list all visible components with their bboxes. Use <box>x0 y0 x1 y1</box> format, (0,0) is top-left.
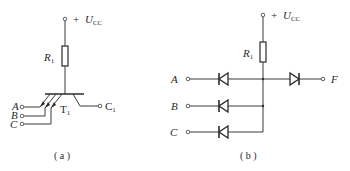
output-terminal-c1 <box>98 104 102 108</box>
diode-c-icon <box>219 126 228 138</box>
supply-label-a: UCC <box>85 13 103 27</box>
figure-b: + UCC R1 A B C F <box>170 9 338 162</box>
caption-b: ( b ) <box>240 150 257 162</box>
supply-label-b: UCC <box>283 9 301 23</box>
input-terminal-b <box>20 114 24 118</box>
diode-a-icon <box>219 73 228 85</box>
supply-terminal-b <box>261 13 265 17</box>
circuit-diagrams: + UCC R1 C1 A B C T1 <box>0 0 350 171</box>
supply-sign-b: + <box>271 9 277 21</box>
resistor-r1-a <box>62 46 68 66</box>
diode-output-icon <box>290 73 299 85</box>
transistor-label-t1: T1 <box>60 103 71 117</box>
input-terminal-a <box>20 105 24 109</box>
output-terminal-f <box>321 77 325 81</box>
input-label-b-b: B <box>171 100 178 112</box>
input-label-c: C <box>10 118 18 130</box>
supply-sign-a: + <box>73 13 79 25</box>
resistor-r1-b <box>260 42 266 62</box>
figure-a: + UCC R1 C1 A B C T1 <box>10 13 116 162</box>
transistor-collector-wire <box>73 94 98 106</box>
output-label-c1: C1 <box>105 100 116 114</box>
input-terminal-b-a <box>186 77 190 81</box>
input-terminal-b-c <box>186 130 190 134</box>
resistor-label-b: R1 <box>242 47 254 61</box>
output-label-f: F <box>330 73 338 85</box>
input-terminal-b-b <box>186 104 190 108</box>
transistor-emitters <box>40 94 62 108</box>
input-label-b-c: C <box>170 126 178 138</box>
input-wire-b <box>24 108 45 116</box>
supply-terminal-a <box>63 17 67 21</box>
caption-a: ( a ) <box>54 150 70 162</box>
resistor-label-a: R1 <box>43 51 55 65</box>
diode-b-icon <box>219 100 228 112</box>
input-label-b-a: A <box>170 73 178 85</box>
input-terminal-c <box>20 122 24 126</box>
